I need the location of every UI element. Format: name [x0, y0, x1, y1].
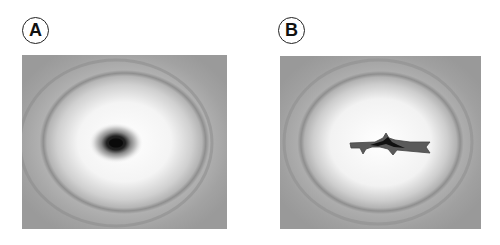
panel-b-image [280, 56, 481, 229]
panel-b-label-text: B [285, 20, 298, 41]
panel-a-label: A [22, 17, 49, 44]
panel-b-label: B [278, 17, 305, 44]
panel-a-label-text: A [29, 20, 42, 41]
diffraction-pattern-a [22, 55, 227, 229]
panel-a-image [22, 55, 227, 229]
diffraction-pattern-b [280, 56, 481, 229]
